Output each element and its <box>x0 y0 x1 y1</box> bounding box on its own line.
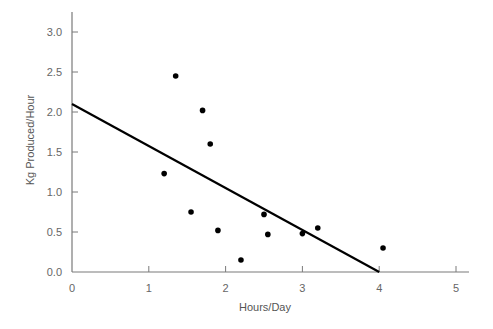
fit-line <box>72 104 379 272</box>
data-point <box>238 257 244 263</box>
data-point <box>265 232 271 238</box>
data-point <box>315 225 321 231</box>
x-tick-label: 0 <box>69 282 75 294</box>
y-tick-label: 2.0 <box>47 106 62 118</box>
data-points <box>161 73 385 263</box>
data-point <box>173 73 179 79</box>
y-tick-label: 3.0 <box>47 26 62 38</box>
data-point <box>215 228 221 234</box>
x-axis-ticks: 012345 <box>69 266 459 294</box>
x-tick-label: 5 <box>453 282 459 294</box>
scatter-chart: 0.00.51.01.52.02.53.0 012345 Hours/Day K… <box>0 0 493 329</box>
x-axis-label: Hours/Day <box>239 301 291 313</box>
data-point <box>161 171 167 177</box>
y-axis-label: Kg Produced/Hour <box>24 94 36 185</box>
x-tick-label: 1 <box>146 282 152 294</box>
y-tick-label: 2.5 <box>47 66 62 78</box>
data-point <box>380 245 386 251</box>
data-point <box>188 209 194 215</box>
x-tick-label: 2 <box>223 282 229 294</box>
y-tick-label: 0.0 <box>47 266 62 278</box>
data-point <box>261 212 267 218</box>
data-point <box>200 108 206 114</box>
y-tick-label: 0.5 <box>47 226 62 238</box>
y-tick-label: 1.5 <box>47 146 62 158</box>
regression-line <box>72 104 379 272</box>
data-point <box>207 141 213 147</box>
y-tick-label: 1.0 <box>47 186 62 198</box>
data-point <box>300 231 306 237</box>
x-tick-label: 3 <box>299 282 305 294</box>
y-axis-ticks: 0.00.51.01.52.02.53.0 <box>47 26 78 278</box>
axes <box>72 12 469 272</box>
x-tick-label: 4 <box>376 282 382 294</box>
